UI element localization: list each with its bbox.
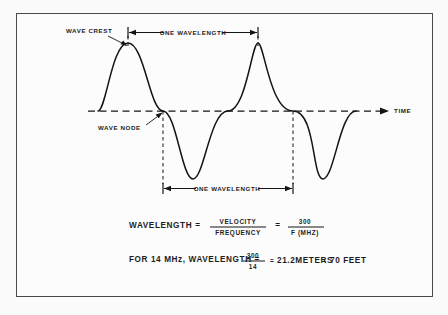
label-time-axis: TIME [394, 107, 411, 114]
label-wave-crest: WAVE CREST [66, 27, 112, 34]
dim-bottom-left-arrowhead [164, 186, 171, 191]
formula-main-equals-2: = [275, 221, 280, 230]
formula-example-prefix: FOR 14 MHz, WAVELENGTH = [129, 255, 260, 264]
formula-main: WAVELENGTH = VELOCITY FREQUENCY = 300 F … [129, 218, 324, 237]
label-wave-node: WAVE NODE [98, 124, 141, 131]
time-axis: TIME [88, 107, 411, 114]
label-one-wavelength-top: ONE WAVELENGTH [160, 29, 227, 36]
dim-bottom-right-arrowhead [285, 186, 292, 191]
formula-main-frac2-numerator: 300 [299, 218, 311, 225]
wavelength-diagram: ONE WAVELENGTH WAVE CREST TIME WAVE NODE [0, 0, 448, 315]
formula-main-frac2-denominator: F (MHZ) [291, 229, 319, 237]
dim-top-left-arrowhead [129, 30, 136, 35]
formula-main-frac1-denominator: FREQUENCY [215, 229, 261, 237]
formula-main-frac1-numerator: VELOCITY [220, 218, 257, 225]
time-axis-arrowhead [380, 108, 389, 115]
formula-main-lhs: WAVELENGTH [129, 221, 192, 230]
formula-example-result-feet: 70 FEET [330, 256, 367, 265]
formula-example-equals-2: = [322, 257, 326, 264]
formula-example-equals-1: = [270, 257, 274, 264]
formula-main-equals-1: = [195, 221, 200, 230]
formula-example-frac-denominator: 14 [249, 263, 257, 270]
formula-example: FOR 14 MHz, WAVELENGTH = 300 14 = 21.2ME… [129, 252, 367, 270]
annotation-wave-crest: WAVE CREST [66, 27, 128, 46]
figure-root: ONE WAVELENGTH WAVE CREST TIME WAVE NODE [0, 0, 448, 315]
label-one-wavelength-bottom: ONE WAVELENGTH [194, 185, 261, 192]
dimension-one-wavelength-bottom: ONE WAVELENGTH [163, 183, 293, 194]
dimension-one-wavelength-top: ONE WAVELENGTH [128, 27, 258, 38]
dim-top-right-arrowhead [250, 30, 257, 35]
annotation-wave-node: WAVE NODE [98, 113, 163, 131]
formula-example-frac-numerator: 300 [247, 252, 259, 259]
